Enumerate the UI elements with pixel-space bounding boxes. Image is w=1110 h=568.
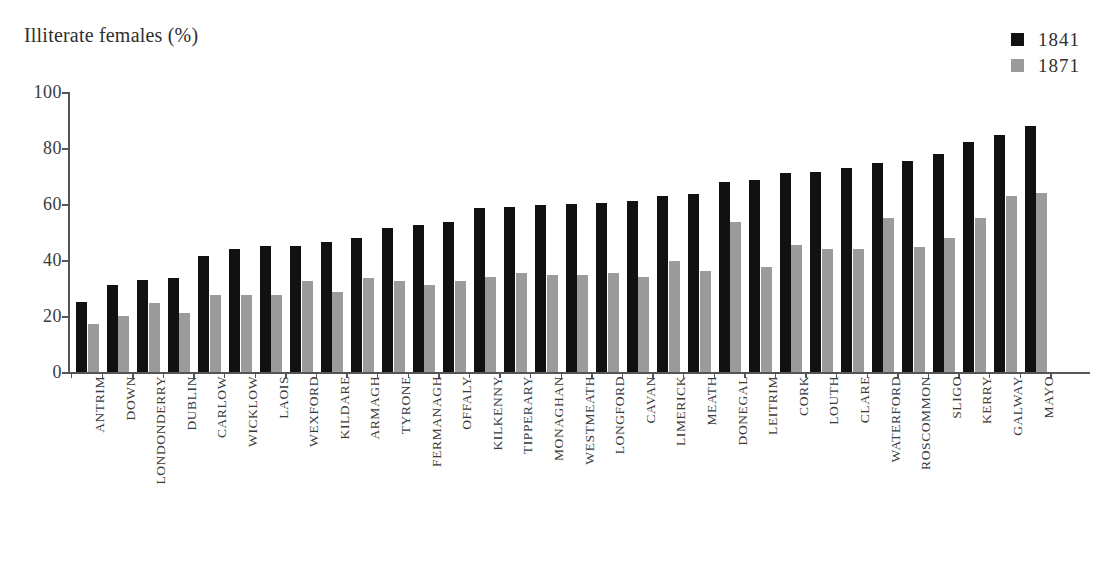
bar-1871 [944, 238, 955, 372]
bar-1871 [669, 261, 680, 372]
x-axis-labels: ANTRIMDOWNLONDONDERRYDUBLINCARLOWWICKLOW… [68, 376, 1090, 556]
x-axis-label: CLARE [857, 376, 873, 423]
bar-group [872, 92, 895, 372]
bar-1871 [914, 247, 925, 372]
bar-1871 [608, 273, 619, 372]
bar-1871 [271, 295, 282, 372]
x-axis-label: CARLOW [214, 376, 230, 438]
bar-1841 [1025, 126, 1036, 372]
bar-1871 [424, 285, 435, 372]
x-axis-line [68, 372, 1090, 374]
bar-group [596, 92, 619, 372]
bar-1841 [443, 222, 454, 372]
bar-1871 [149, 303, 160, 372]
bar-1841 [749, 180, 760, 372]
x-axis-label: WESTMEATH [582, 376, 598, 465]
bar-series-container [68, 92, 1090, 372]
x-axis-label: LONDONDERRY [153, 376, 169, 485]
bar-group [137, 92, 160, 372]
x-axis-label: LONGFORD [612, 376, 628, 454]
x-axis-label: SLIGO [949, 376, 965, 419]
x-axis-label: FERMANAGH [429, 376, 445, 467]
bar-1871 [241, 295, 252, 372]
legend-item-1871: 1871 [1011, 52, 1080, 78]
x-axis-label: MONAGHAN [551, 376, 567, 461]
x-axis-label: ANTRIM [92, 376, 108, 433]
bar-1871 [822, 249, 833, 372]
x-axis-label: LAOIS [276, 376, 292, 419]
bar-1841 [137, 280, 148, 372]
bar-1871 [179, 313, 190, 372]
bar-1841 [657, 196, 668, 372]
bar-1871 [302, 281, 313, 372]
bar-1841 [76, 302, 87, 372]
bar-1841 [168, 278, 179, 372]
bar-1871 [516, 273, 527, 372]
bar-1841 [627, 201, 638, 372]
bar-group [229, 92, 252, 372]
bar-group [1025, 92, 1048, 372]
y-tick-label: 40 [43, 250, 62, 271]
chart-legend: 1841 1871 [1011, 26, 1080, 78]
bar-group [504, 92, 527, 372]
bar-1871 [730, 222, 741, 372]
bar-1841 [872, 163, 883, 372]
bar-group [382, 92, 405, 372]
bar-1871 [975, 218, 986, 372]
chart-title: Illiterate females (%) [24, 24, 198, 47]
bar-1841 [535, 205, 546, 372]
bar-1871 [791, 245, 802, 372]
x-axis-label: LEITRIM [765, 376, 781, 435]
bar-1841 [994, 135, 1005, 372]
x-axis-label: MAYO [1041, 376, 1057, 418]
x-axis-label: ROSCOMMON [918, 376, 934, 470]
bar-1871 [332, 292, 343, 372]
bar-1871 [1006, 196, 1017, 372]
bar-1871 [577, 275, 588, 372]
bar-1841 [229, 249, 240, 372]
bar-1841 [933, 154, 944, 372]
bar-group [413, 92, 436, 372]
x-axis-label: TIPPERARY [520, 376, 536, 454]
x-axis-label: ARMAGH [367, 376, 383, 440]
x-axis-label: WICKLOW [245, 376, 261, 447]
bar-group [321, 92, 344, 372]
bar-group [290, 92, 313, 372]
legend-item-1841: 1841 [1011, 26, 1080, 52]
x-axis-label: DUBLIN [184, 376, 200, 431]
x-axis-label: CAVAN [643, 376, 659, 424]
legend-label-1841: 1841 [1038, 30, 1080, 49]
bar-1841 [780, 173, 791, 372]
bar-group [107, 92, 130, 372]
bar-1841 [321, 242, 332, 372]
bar-group [841, 92, 864, 372]
plot-area: 020406080100 [68, 92, 1090, 372]
bar-1841 [596, 203, 607, 372]
bar-1841 [474, 208, 485, 372]
bar-1871 [455, 281, 466, 372]
x-axis-label: TYRONE [398, 376, 414, 434]
bar-1871 [761, 267, 772, 372]
bar-1841 [351, 238, 362, 372]
bar-group [198, 92, 221, 372]
bar-1841 [810, 172, 821, 372]
x-axis-label: LOUTH [826, 376, 842, 425]
bar-group [749, 92, 772, 372]
bar-1841 [382, 228, 393, 372]
bar-1871 [118, 316, 129, 372]
legend-swatch-1841 [1011, 33, 1024, 46]
bar-group [535, 92, 558, 372]
legend-swatch-1871 [1011, 59, 1024, 72]
x-axis-label: DONEGAL [735, 376, 751, 445]
bar-1871 [700, 271, 711, 372]
bar-group [780, 92, 803, 372]
bar-1871 [547, 275, 558, 372]
bar-group [474, 92, 497, 372]
bar-1871 [88, 324, 99, 372]
bar-group [902, 92, 925, 372]
bar-1841 [107, 285, 118, 372]
bar-group [657, 92, 680, 372]
bar-1841 [260, 246, 271, 372]
bar-1841 [504, 207, 515, 372]
x-axis-label: WEXFORD [306, 376, 322, 447]
